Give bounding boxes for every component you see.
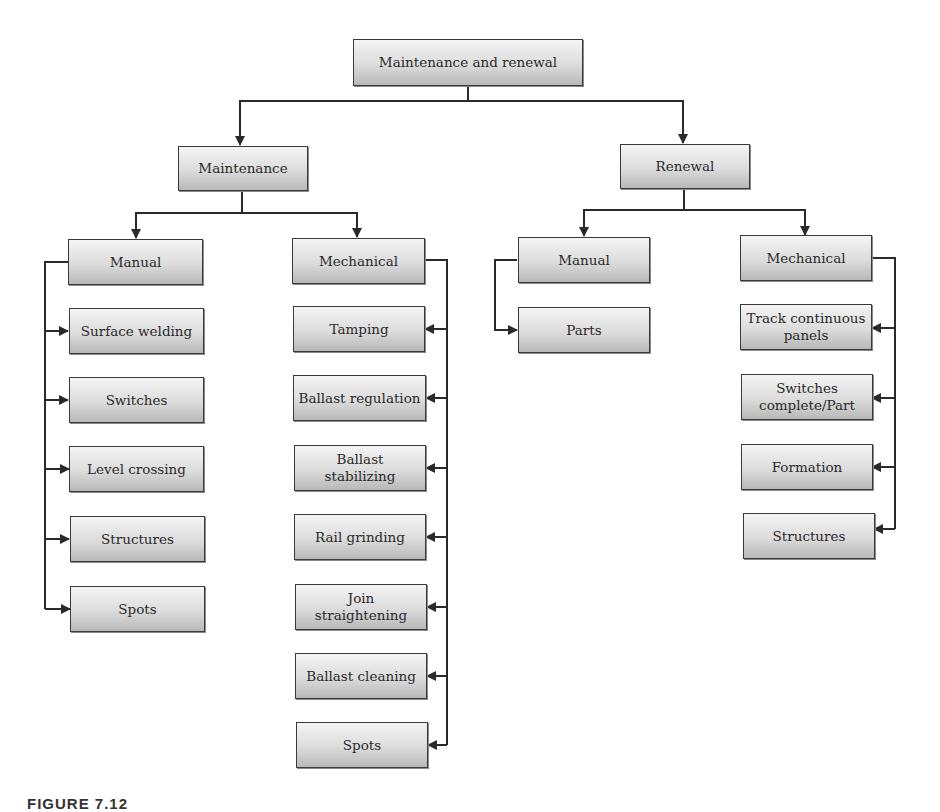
node-maintenance-manual-item: Level crossing [69, 446, 204, 492]
node-renewal-mechanical-item: Switches complete/Part [741, 374, 873, 420]
node-label: Switches [106, 392, 168, 409]
node-maintenance-mechanical-item: Ballast stabilizing [294, 445, 426, 491]
node-label: Switches complete/Part [746, 380, 868, 414]
node-maintenance-mechanical-item: Tamping [293, 306, 425, 352]
node-label: Parts [566, 322, 601, 339]
node-label: Formation [772, 459, 843, 476]
node-maintenance-mechanical-item: Join straightening [295, 584, 427, 630]
node-label: Manual [558, 252, 610, 269]
node-renewal-mechanical-item: Structures [743, 513, 875, 559]
node-maintenance-manual-item: Switches [69, 377, 204, 423]
node-renewal-mechanical-item: Formation [741, 444, 873, 490]
node-renewal-mechanical: Mechanical [740, 235, 872, 281]
node-label: Level crossing [87, 461, 186, 478]
node-label: Mechanical [766, 250, 845, 267]
node-label: Spots [343, 737, 381, 754]
node-renewal: Renewal [620, 144, 750, 189]
node-label: Join straightening [300, 590, 422, 624]
node-maintenance-mechanical-item: Rail grinding [294, 514, 426, 560]
node-label: Spots [118, 601, 156, 618]
node-label: Ballast cleaning [306, 668, 416, 685]
node-renewal-manual-item: Parts [518, 307, 650, 353]
node-maintenance-mechanical: Mechanical [292, 238, 425, 284]
node-label: Renewal [656, 158, 715, 175]
node-label: Structures [773, 528, 846, 545]
node-renewal-mechanical-item: Track continuous panels [740, 304, 872, 350]
node-label: Track continuous panels [745, 310, 867, 344]
node-label: Maintenance [198, 160, 287, 177]
node-maintenance-mechanical-item: Ballast regulation [293, 375, 426, 421]
node-maintenance-manual: Manual [68, 239, 203, 285]
node-maintenance-manual-item: Structures [70, 516, 205, 562]
node-maintenance-manual-item: Surface welding [69, 308, 204, 354]
node-maintenance-manual-item: Spots [70, 586, 205, 632]
node-label: Structures [101, 531, 174, 548]
node-maintenance-mechanical-item: Ballast cleaning [295, 653, 427, 699]
node-label: Ballast regulation [298, 390, 420, 407]
node-label: Mechanical [319, 253, 398, 270]
node-label: Tamping [329, 321, 388, 338]
node-label: Rail grinding [315, 529, 405, 546]
node-renewal-manual: Manual [518, 237, 650, 283]
node-label: Surface welding [81, 323, 192, 340]
figure-caption: FIGURE 7.12 [27, 795, 128, 812]
node-maintenance-mechanical-item: Spots [296, 722, 428, 768]
node-label: Manual [110, 254, 162, 271]
node-maintenance: Maintenance [178, 146, 308, 191]
node-label: Maintenance and renewal [379, 54, 557, 71]
node-label: Ballast stabilizing [299, 451, 421, 485]
node-root: Maintenance and renewal [353, 39, 583, 86]
